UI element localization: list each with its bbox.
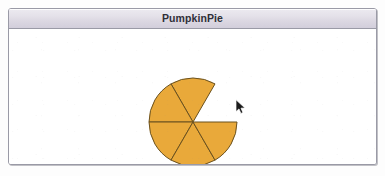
pie-slice-group <box>149 78 237 164</box>
window-title-text: PumpkinPie <box>162 13 223 24</box>
application-window: PumpkinPie <box>8 8 377 165</box>
pie-chart <box>9 29 376 164</box>
window-title-bar[interactable]: PumpkinPie <box>9 9 376 29</box>
chart-content-area <box>9 29 376 164</box>
